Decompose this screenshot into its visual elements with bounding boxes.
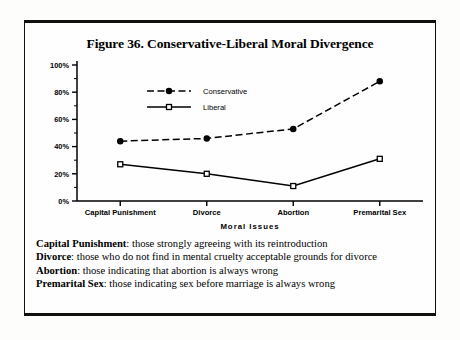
figure-note-line: Divorce: those who do not find in mental… [36,250,435,263]
y-axis-tick-label: 80% [54,88,69,97]
figure-note-term: Divorce [36,251,71,262]
chart-legend: ConservativeLiberal [147,87,247,112]
figure-note-text: : those strongly agreeing with its reint… [126,238,327,249]
figure-note-text: : those indicating that abortion is alwa… [77,265,278,276]
legend-label-liberal: Liberal [203,103,226,112]
x-axis-tick-label: Capital Punishment [85,208,156,217]
figure-note-text: : those indicating sex before marriage i… [104,278,335,289]
y-axis-tick-label: 40% [54,142,69,151]
x-axis-title-text: Moral Issues [220,222,279,231]
figure-notes: Capital Punishment: those strongly agree… [36,237,435,291]
figure-note-term: Abortion [36,265,77,276]
chart-plot-area: 0%20%40%60%80%100% Capital PunishmentDiv… [25,55,437,233]
figure-note-text: : those who do not find in mental cruelt… [71,251,377,262]
data-point-liberal-2 [291,184,296,189]
data-point-conservative-3 [377,79,382,84]
x-axis: Capital PunishmentDivorceAbortionPremari… [77,201,423,217]
data-point-conservative-0 [118,139,123,144]
y-axis-tick-label: 60% [54,115,69,124]
figure-note-line: Capital Punishment: those strongly agree… [36,237,435,250]
x-axis-tick-label: Premarital Sex [353,208,407,217]
figure-frame: Figure 36. Conservative-Liberal Moral Di… [24,20,436,316]
line-chart: 0%20%40%60%80%100% Capital PunishmentDiv… [25,55,437,233]
data-point-liberal-1 [204,171,209,176]
figure-note-term: Capital Punishment [36,238,126,249]
figure-note-line: Premarital Sex: those indicating sex bef… [36,277,435,290]
x-axis-tick-label: Divorce [193,208,221,217]
data-point-liberal-0 [118,162,123,167]
figure-note-term: Premarital Sex [36,278,104,289]
legend-marker-liberal [167,105,172,110]
figure-note-line: Abortion: those indicating that abortion… [36,264,435,277]
x-axis-title: Moral Issues [220,222,279,231]
data-point-conservative-1 [204,136,209,141]
legend-marker-conservative [166,88,171,93]
data-series-group [118,79,383,189]
x-axis-tick-label: Abortion [277,208,309,217]
data-point-liberal-3 [377,156,382,161]
data-point-conservative-2 [291,126,296,131]
y-axis-tick-label: 100% [50,61,69,70]
figure-title: Figure 36. Conservative-Liberal Moral Di… [25,36,435,52]
y-axis-tick-label: 0% [58,197,69,206]
legend-label-conservative: Conservative [203,87,247,96]
series-line-liberal [120,159,380,186]
y-axis-tick-label: 20% [54,170,69,179]
y-axis: 0%20%40%60%80%100% [50,61,77,206]
